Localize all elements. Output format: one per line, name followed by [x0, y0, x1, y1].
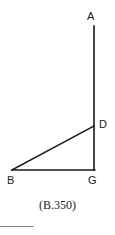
vertex-label-b: B [7, 175, 14, 186]
geometry-figure: A D B G (B.350) [0, 0, 115, 235]
vertex-label-d: D [99, 119, 107, 130]
figure-caption: (B.350) [0, 198, 115, 212]
segment-B-D [12, 126, 94, 170]
vertex-label-a: A [87, 11, 94, 22]
footer-divider [0, 226, 34, 227]
vertex-label-g: G [88, 175, 97, 186]
